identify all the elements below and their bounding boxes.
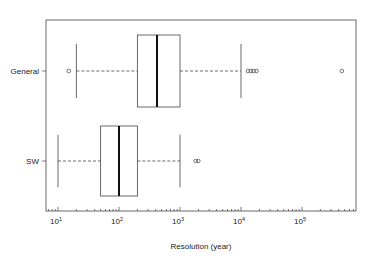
- y-axis: GeneralSW: [11, 67, 46, 166]
- boxes-layer: [58, 35, 344, 196]
- outlier-point: [67, 69, 71, 73]
- x-tick-label: 102: [111, 216, 123, 226]
- y-tick-label: SW: [26, 157, 39, 166]
- iqr-box: [137, 35, 180, 107]
- y-tick-label: General: [11, 67, 40, 76]
- box-sw: [58, 126, 200, 196]
- x-tick-label: 103: [172, 216, 184, 226]
- x-axis: 101102103104105: [49, 207, 354, 226]
- box-general: [67, 35, 344, 107]
- boxplot-chart: 101102103104105 GeneralSW Resolution (ye…: [0, 0, 366, 256]
- x-axis-label: Resolution (year): [171, 242, 232, 251]
- plot-frame: [46, 20, 356, 211]
- x-tick-label: 104: [233, 216, 245, 226]
- x-tick-label: 105: [294, 216, 306, 226]
- outlier-point: [340, 69, 344, 73]
- x-tick-label: 101: [50, 216, 62, 226]
